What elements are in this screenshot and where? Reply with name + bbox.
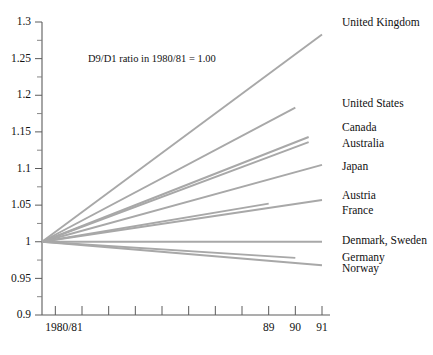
series-label-denmark-sweden: Denmark, Sweden [342,234,427,247]
y-tick-label: 1.2 [17,88,32,100]
series-line-japan [42,165,322,242]
y-tick-label: 1.05 [11,198,31,210]
x-tick-label: 91 [316,321,328,333]
y-tick-label: 1 [25,235,31,247]
series-label-austria: Austria [342,189,376,201]
series-labels: United KingdomUnited StatesCanadaAustral… [342,16,427,275]
x-base-tick-label: 1980/81 [45,321,83,333]
series-line-united-states [42,108,295,242]
y-tick-label: 0.9 [17,308,32,320]
y-tick-label: 1.1 [17,162,32,174]
series-label-canada: Canada [342,121,376,133]
series-label-norway: Norway [342,262,379,275]
annotation-text: D9/D1 ratio in 1980/81 = 1.00 [88,53,216,64]
y-tick-label: 1.3 [17,15,32,27]
series-line-norway [42,242,322,265]
d9-d1-ratio-line-chart: 0.90.9511.051.11.151.21.251.3 8990911980… [0,0,433,355]
chart-container: 0.90.9511.051.11.151.21.251.3 8990911980… [0,0,433,355]
series-label-united-kingdom: United Kingdom [342,16,420,29]
chart-annotation: D9/D1 ratio in 1980/81 = 1.00 [88,53,216,64]
series-line-united-kingdom [42,34,322,241]
x-tick-label: 90 [290,321,302,333]
series-lines [42,34,322,265]
series-label-united-states: United States [342,97,404,109]
y-axis: 0.90.9511.051.11.151.21.251.3 [11,15,42,320]
y-tick-label: 1.25 [11,52,31,64]
series-line-france [42,200,322,242]
x-axis: 8990911980/81 [42,306,330,333]
x-tick-label: 89 [263,321,275,333]
series-label-japan: Japan [342,160,368,173]
series-label-australia: Australia [342,137,384,149]
y-tick-label: 0.95 [11,272,31,284]
y-tick-label: 1.15 [11,125,31,137]
series-label-france: France [342,204,373,216]
series-line-australia [42,142,309,242]
